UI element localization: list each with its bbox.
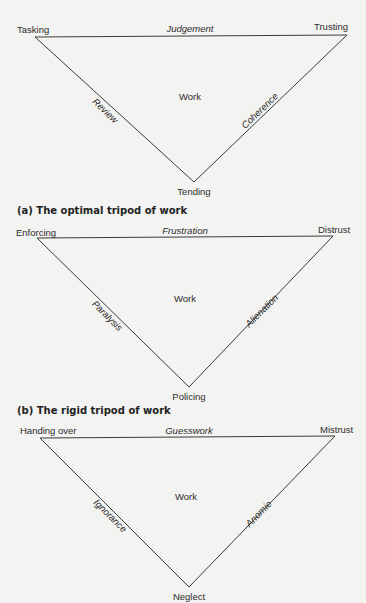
caption: (a) The optimal tripod of work xyxy=(17,205,187,216)
edge-left-label: Paralysis xyxy=(90,298,125,333)
triangle-outline xyxy=(40,436,335,587)
edge-top-label: Judgement xyxy=(165,23,213,34)
edge-right-label: Alienation xyxy=(242,292,280,330)
triangle-outline xyxy=(37,236,333,387)
center-label: Work xyxy=(174,293,196,304)
vertex-bottom: Neglect xyxy=(173,591,206,602)
tripod-rigid: Enforcing Distrust Policing Frustration … xyxy=(16,224,351,416)
tripod-diagrams: Tasking Trusting Tending Judgement Work … xyxy=(0,0,366,603)
edge-top-label: Guesswork xyxy=(165,425,214,436)
vertex-top-right: Distrust xyxy=(318,224,351,235)
vertex-top-right: Trusting xyxy=(314,21,348,32)
caption: (b) The rigid tripod of work xyxy=(17,405,171,416)
edge-right-label: Coherence xyxy=(239,90,280,130)
vertex-top-left: Tasking xyxy=(17,24,49,35)
edge-right-label: Anomie xyxy=(243,498,274,529)
edge-top-label: Frustration xyxy=(162,225,207,236)
tripod-loose: Handing over Mistrust Neglect Guesswork … xyxy=(20,424,354,602)
center-label: Work xyxy=(175,491,197,502)
vertex-top-right: Mistrust xyxy=(320,424,354,435)
vertex-top-left: Enforcing xyxy=(16,227,56,238)
tripod-optimal: Tasking Trusting Tending Judgement Work … xyxy=(17,21,348,216)
vertex-bottom: Tending xyxy=(177,186,210,197)
edge-left-label: Ignorance xyxy=(92,497,130,535)
vertex-top-left: Handing over xyxy=(20,425,77,436)
triangle-outline xyxy=(35,35,347,182)
vertex-bottom: Policing xyxy=(172,391,205,402)
center-label: Work xyxy=(179,91,201,102)
